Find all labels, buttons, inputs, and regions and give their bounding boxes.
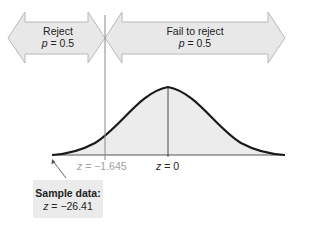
z-variable: z: [156, 160, 161, 172]
sample-data-box: Sample data: z = −26.41: [33, 180, 103, 218]
p-value: = 0.5: [51, 37, 75, 49]
p-variable: p: [179, 37, 185, 49]
p-variable: p: [42, 37, 48, 49]
reject-label: Reject p = 0.5: [28, 25, 88, 49]
center-z-label: z = 0: [156, 160, 179, 172]
p-value: = 0.5: [188, 37, 212, 49]
critical-z-label: z = −1.645: [77, 160, 127, 172]
reject-title: Reject: [28, 25, 88, 37]
fail-to-reject-title: Fail to reject: [140, 25, 250, 37]
fail-to-reject-p-value: p = 0.5: [140, 37, 250, 49]
z-value: = 0: [164, 160, 179, 172]
z-variable: z: [43, 200, 48, 212]
sample-pointer-line: [53, 161, 66, 178]
sample-z: z = −26.41: [33, 200, 103, 212]
reject-p-value: p = 0.5: [28, 37, 88, 49]
sample-z-value: = −26.41: [51, 200, 92, 212]
area-under-curve: [52, 87, 285, 155]
fail-to-reject-label: Fail to reject p = 0.5: [140, 25, 250, 49]
z-value: = −1.645: [85, 160, 126, 172]
z-variable: z: [77, 160, 82, 172]
sample-title: Sample data:: [33, 187, 103, 199]
